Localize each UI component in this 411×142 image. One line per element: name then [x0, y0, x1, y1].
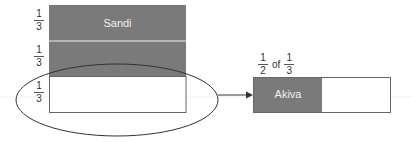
- fraction-label-3: 1 3: [34, 81, 44, 104]
- fraction-label-2: 1 3: [34, 45, 44, 68]
- segment-label-sandi: Sandi: [49, 17, 186, 29]
- denominator: 3: [34, 94, 44, 104]
- segment-label-akiva: Akiva: [254, 88, 322, 100]
- caption-word: of: [272, 59, 280, 70]
- left-bar-empty-third: [50, 77, 187, 113]
- denominator: 3: [284, 66, 294, 76]
- denominator: 3: [34, 22, 44, 32]
- numerator: 1: [34, 45, 44, 55]
- caption-fraction-1: 1 2: [258, 53, 268, 76]
- numerator: 1: [258, 53, 268, 63]
- numerator: 1: [284, 53, 294, 63]
- caption-fraction-2: 1 3: [284, 53, 294, 76]
- denominator: 3: [34, 58, 44, 68]
- numerator: 1: [34, 9, 44, 19]
- right-bar-caption: 1 2 of 1 3: [258, 53, 294, 76]
- fraction-label-1: 1 3: [34, 9, 44, 32]
- numerator: 1: [34, 81, 44, 91]
- denominator: 2: [258, 66, 268, 76]
